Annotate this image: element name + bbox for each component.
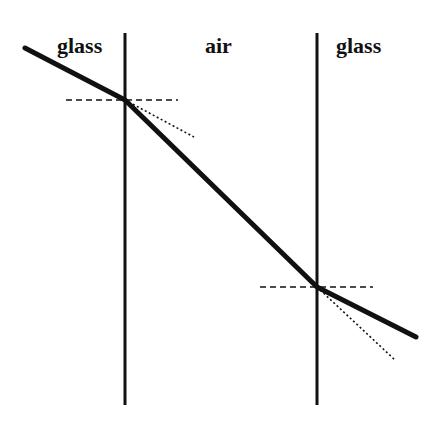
light-ray <box>25 48 416 337</box>
right-extension-dotted <box>317 287 395 360</box>
refraction-diagram <box>0 0 434 423</box>
label-air: air <box>205 35 232 57</box>
label-left-glass: glass <box>57 35 102 57</box>
label-right-glass: glass <box>336 35 381 57</box>
